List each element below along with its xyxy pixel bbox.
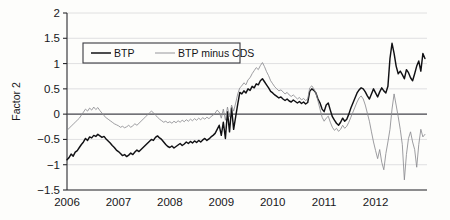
chart-legend: BTPBTP minus CDS <box>83 43 254 63</box>
legend-label-btp: BTP <box>114 47 134 59</box>
x-tick-label: 2012 <box>363 196 389 208</box>
x-tick-label: 2008 <box>157 196 183 208</box>
chart-figure: −1.5−1−0.500.511.52 20062007200820092010… <box>0 0 450 220</box>
y-tick-label: −0.5 <box>37 133 60 145</box>
legend-label-btp-minus-cds: BTP minus CDS <box>178 47 254 59</box>
x-tick-label: 2006 <box>54 196 80 208</box>
y-tick-label: 0 <box>54 108 60 120</box>
factor2-line-chart: −1.5−1−0.500.511.52 20062007200820092010… <box>0 0 450 220</box>
x-tick-label: 2010 <box>260 196 286 208</box>
y-tick-label: −1.5 <box>37 184 60 196</box>
y-tick-label: 1.5 <box>44 32 60 44</box>
y-tick-label: −1 <box>47 159 60 171</box>
y-axis-label: Factor 2 <box>10 82 22 121</box>
y-tick-label: 2 <box>54 7 60 19</box>
x-tick-label: 2011 <box>312 196 337 208</box>
x-tick-label: 2007 <box>106 196 132 208</box>
x-tick-label: 2009 <box>208 196 234 208</box>
y-tick-label: 0.5 <box>44 83 60 95</box>
y-tick-label: 1 <box>54 58 60 70</box>
